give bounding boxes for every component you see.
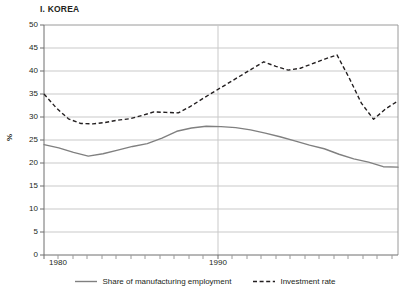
grid-lines [44,25,398,232]
series-line-manufacturing [44,126,398,167]
series-line-investment [44,55,398,124]
legend-swatch-dashed [253,278,275,285]
legend-item-manufacturing: Share of manufacturing employment [75,277,231,286]
chart-container: I. KOREA % 50 45 40 35 30 25 20 15 10 5 … [0,0,411,300]
legend-label-investment: Investment rate [280,277,335,286]
legend-item-investment: Investment rate [253,277,335,286]
legend-label-manufacturing: Share of manufacturing employment [102,277,231,286]
x-axis-ticks [44,255,392,259]
chart-legend: Share of manufacturing employment Invest… [0,277,411,286]
legend-swatch-solid [75,278,97,285]
plot-area [0,0,411,300]
y-axis-ticks [40,25,44,255]
